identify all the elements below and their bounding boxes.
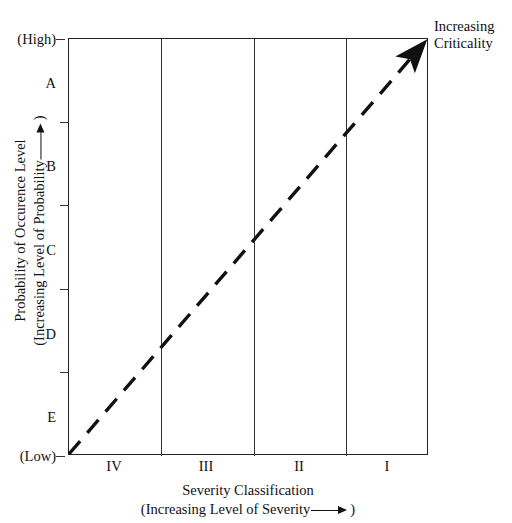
x-axis-caption-line1: Severity Classification bbox=[182, 482, 314, 498]
band-divider-iii-ii bbox=[254, 39, 255, 456]
y-axis-tick-d-e bbox=[60, 372, 69, 373]
x-axis-label-iv: IV bbox=[106, 459, 121, 474]
x-axis-increasing-arrow-icon bbox=[311, 504, 349, 516]
y-axis-low-label: (Low) bbox=[0, 449, 56, 464]
band-divider-ii-i bbox=[346, 39, 347, 456]
band-divider-iv-iii bbox=[161, 39, 162, 456]
y-axis-increasing-arrow-icon bbox=[35, 121, 47, 159]
y-axis-tick-b-c bbox=[60, 205, 69, 206]
x-axis-caption-line2: (Increasing Level of Severity) bbox=[68, 500, 428, 519]
annotation-line2: Criticality bbox=[434, 35, 494, 52]
x-axis-label-ii: II bbox=[294, 459, 304, 474]
x-axis-caption-line2-close: ) bbox=[350, 501, 355, 517]
criticality-matrix-chart: (High) (Low) A B C D E Probability of Oc… bbox=[0, 0, 512, 523]
plot-area bbox=[68, 38, 428, 455]
x-axis-caption-line2-text: (Increasing Level of Severity bbox=[141, 501, 311, 517]
y-axis-caption-line2-close: ) bbox=[31, 115, 47, 120]
y-axis-caption-line2: (Increasing Level of Probability) bbox=[30, 31, 49, 431]
y-axis-caption-line2-text: (Increasing Level of Probability bbox=[31, 160, 47, 346]
x-axis-label-iii: III bbox=[199, 459, 214, 474]
y-axis-caption: Probability of Occurence Level (Increasi… bbox=[11, 31, 48, 431]
y-axis-tick-a-b bbox=[60, 122, 69, 123]
y-axis-tick-c-d bbox=[60, 289, 69, 290]
y-axis-caption-line1: Probability of Occurence Level bbox=[12, 139, 28, 321]
x-axis-label-i: I bbox=[385, 459, 390, 474]
increasing-criticality-annotation: Increasing Criticality bbox=[434, 18, 494, 53]
annotation-line1: Increasing bbox=[434, 18, 494, 34]
x-axis-caption: Severity Classification (Increasing Leve… bbox=[68, 481, 428, 518]
